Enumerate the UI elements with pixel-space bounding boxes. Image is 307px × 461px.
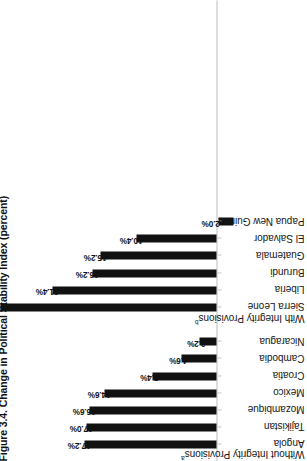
value-label-guatemala: 15.2% (83, 252, 106, 261)
bar-el-salvador (136, 234, 216, 242)
axis-tick (217, 237, 221, 238)
category-label-liberia: Liberia (274, 283, 304, 294)
value-label-croatia: 8.4% (139, 372, 157, 381)
axis-tick (217, 409, 221, 410)
category-label-burundi: Burundi (270, 266, 304, 277)
axis-tick (217, 426, 221, 427)
axis-tick (217, 392, 221, 393)
category-label-sierra-leone: Sierra Leone (247, 300, 304, 311)
value-label-burundi: 16.2% (75, 269, 98, 278)
category-label-angola: Angola (273, 438, 304, 449)
axis-tick (217, 289, 221, 290)
value-label-cambodia: 4.6% (169, 355, 187, 364)
category-label-tajikistan: Tajikistan (263, 420, 304, 431)
bar-mexico (104, 389, 216, 397)
bar-mozambique (89, 406, 216, 414)
category-label-papua-new-guinea: Papua New Guinea (218, 215, 304, 226)
value-label-tajikistan: 17.0% (69, 423, 92, 432)
bar-croatia (152, 372, 216, 380)
category-label-cambodia: Cambodia (259, 352, 304, 363)
axis-tick (217, 272, 221, 273)
bar-tajikistan (86, 423, 216, 431)
figure-root: Figure 3.4. Change in Political Stabilit… (0, 0, 307, 461)
bar-burundi (92, 269, 216, 277)
category-label-nicaragua: Nicaragua (259, 335, 304, 346)
axis-tick (217, 306, 221, 307)
bar-guatemala (100, 252, 216, 260)
category-label-mozambique: Mozambique (247, 403, 304, 414)
axis-tick (217, 358, 221, 359)
value-label-mexico: 14.6% (88, 389, 111, 398)
plot-area: 17.2%Angola17.0%Tajikistan16.6%Mozambiqu… (22, 0, 307, 461)
group-label-without-integrity-provisions: Without Integrity Provisionsa (181, 449, 304, 461)
value-label-liberia: 21.4% (36, 286, 59, 295)
axis-tick (217, 375, 221, 376)
bar-angola (84, 440, 216, 448)
chart-canvas: Figure 3.4. Change in Political Stabilit… (0, 0, 307, 461)
group-label-with-integrity-provisions: With Integrity Provisionsb (194, 312, 304, 324)
category-label-el-salvador: El Salvador (253, 232, 304, 243)
category-label-guatemala: Guatemala (256, 249, 304, 260)
axis-tick (217, 340, 221, 341)
category-label-mexico: Mexico (273, 386, 304, 397)
value-label-mozambique: 16.6% (72, 406, 95, 415)
category-label-croatia: Croatia (272, 369, 304, 380)
bar-sierra-leone (0, 303, 216, 311)
figure-title: Figure 3.4. Change in Political Stabilit… (0, 0, 8, 461)
value-label-nicaragua: 2.2% (187, 338, 205, 347)
axis-tick (217, 255, 221, 256)
bar-liberia (52, 286, 216, 294)
axis-tick (217, 443, 221, 444)
value-label-angola: 17.2% (68, 441, 91, 450)
value-label-el-salvador: 10.4% (120, 235, 143, 244)
